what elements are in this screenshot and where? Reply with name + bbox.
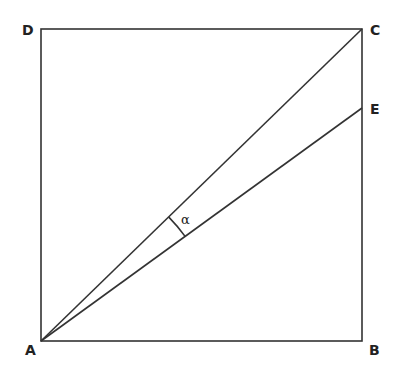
label-c: C [370,22,380,38]
geometry-diagram: D C E A B α [0,0,397,372]
segment-ae [41,108,362,341]
diagonal-ac [41,29,362,341]
label-e: E [370,101,380,117]
label-d: D [22,22,34,38]
label-a: A [25,342,36,358]
label-alpha: α [181,212,190,227]
label-b: B [369,342,380,358]
